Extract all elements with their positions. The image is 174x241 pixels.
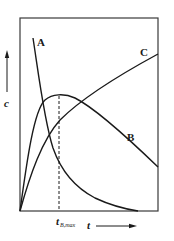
x-axis-arrow xyxy=(96,224,137,228)
x-axis-label: t xyxy=(87,219,91,231)
svg-text:B,max: B,max xyxy=(60,222,75,228)
curve-a xyxy=(33,38,138,211)
kinetics-chart: c t t B,max A B C xyxy=(0,0,174,241)
series-label-b: B xyxy=(127,131,135,143)
series-label-c: C xyxy=(140,46,148,58)
curve-c xyxy=(20,54,158,211)
series-label-a: A xyxy=(37,36,45,48)
y-axis-arrow xyxy=(5,50,9,92)
tmax-label: t B,max xyxy=(56,215,75,228)
y-axis-label: c xyxy=(4,97,9,109)
curve-b xyxy=(20,95,158,211)
